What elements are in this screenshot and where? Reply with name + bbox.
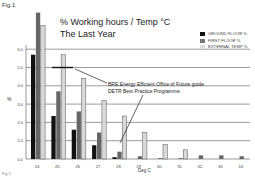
bar (240, 156, 244, 159)
reference-annotation: BRE Energy Efficient Office of Future gu… (108, 81, 204, 95)
bar (138, 156, 142, 159)
bar (143, 132, 147, 159)
x-tick-label: 24 (35, 164, 40, 169)
pointer-line (75, 69, 107, 83)
legend: GROUND FLOOR % FIRST FLOOR % EXTERNAL TE… (200, 31, 247, 51)
bar (158, 158, 162, 159)
x-tick-label: 31 (177, 164, 182, 169)
x-axis-label: Deg C (138, 168, 151, 173)
bar (112, 157, 116, 159)
bar (92, 145, 96, 159)
y-tick-label: 2.0 (17, 120, 23, 125)
legend-swatch (200, 45, 205, 49)
y-tick-label: 1.0 (17, 138, 23, 143)
x-tick-label: 28 (116, 164, 121, 169)
x-tick-label: 25 (55, 164, 60, 169)
y-tick-label: 0.0 (17, 157, 23, 162)
bar (31, 55, 35, 159)
legend-item-external: EXTERNAL TEMP % (200, 44, 247, 51)
bar (36, 13, 40, 159)
bar (183, 150, 187, 159)
bar (51, 116, 55, 159)
bar (97, 132, 101, 159)
bar (82, 78, 86, 159)
y-tick-label: 6.0 (17, 47, 23, 52)
bar (61, 55, 65, 159)
y-axis-label: % (7, 96, 11, 102)
bar (163, 144, 167, 159)
y-tick-label: 3.0 (17, 102, 23, 107)
legend-swatch (200, 39, 205, 43)
y-tick-label: 4.0 (17, 83, 23, 88)
x-tick-label: 30 (157, 164, 162, 169)
bar (102, 100, 106, 159)
bar (117, 152, 121, 159)
bar (178, 158, 182, 159)
y-tick-label: 5.0 (17, 65, 23, 70)
legend-swatch (200, 32, 205, 36)
bar (77, 111, 81, 159)
bar (72, 130, 76, 159)
footer-figure-label: Fig.2 (2, 171, 11, 176)
x-tick-label: 33 (218, 164, 223, 169)
x-tick-label: 26 (75, 164, 80, 169)
x-tick-label: 34 (238, 164, 243, 169)
bar (199, 155, 203, 159)
x-tick-label: 32 (198, 164, 203, 169)
bar (41, 25, 45, 159)
x-tick-label: 27 (96, 164, 101, 169)
bar (219, 155, 223, 159)
bar (56, 91, 60, 159)
